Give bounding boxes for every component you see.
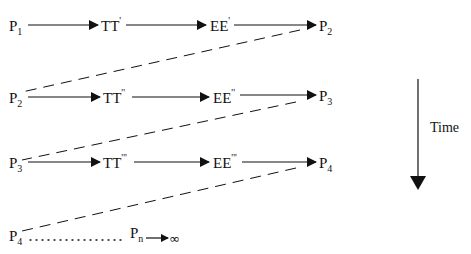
node-p2-end: P2 bbox=[319, 18, 332, 37]
final-row: P4 Pn ∞ bbox=[9, 225, 180, 247]
node-p3: P3 bbox=[9, 155, 22, 174]
node-tt1: TT' bbox=[101, 15, 121, 34]
row-2: P2 TT'' EE'' P3 bbox=[9, 87, 332, 109]
process-cycle-diagram: P1 TT' EE' P2 P2 TT'' EE'' P3 P3 TT''' E… bbox=[0, 0, 471, 254]
feedback-dashed-1 bbox=[22, 30, 300, 92]
node-p2: P2 bbox=[9, 90, 22, 109]
node-tt2: TT'' bbox=[103, 87, 125, 106]
time-axis: Time bbox=[410, 79, 459, 190]
time-axis-label: Time bbox=[430, 120, 459, 135]
node-ee3: EE''' bbox=[213, 152, 237, 171]
node-p4: P4 bbox=[9, 228, 22, 247]
down-arrow-icon bbox=[410, 176, 426, 190]
infinity-symbol: ∞ bbox=[169, 231, 180, 246]
node-ee1: EE' bbox=[210, 15, 230, 34]
row-1: P1 TT' EE' P2 bbox=[9, 15, 332, 37]
node-p1: P1 bbox=[9, 18, 22, 37]
feedback-dashed-3 bbox=[22, 168, 296, 231]
node-ee2: EE'' bbox=[213, 87, 235, 106]
node-tt3: TT''' bbox=[103, 152, 127, 171]
row-3: P3 TT''' EE''' P4 bbox=[9, 152, 332, 174]
node-pn: Pn bbox=[130, 225, 143, 244]
node-p3-end: P3 bbox=[319, 88, 332, 107]
feedback-dashed-2 bbox=[22, 102, 296, 160]
node-p4-end: P4 bbox=[319, 155, 332, 174]
